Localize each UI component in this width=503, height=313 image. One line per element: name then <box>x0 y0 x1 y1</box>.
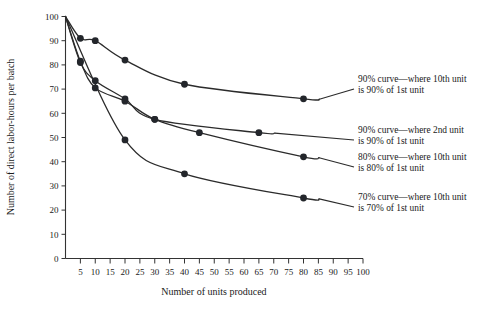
x-tick-label: 15 <box>106 267 116 277</box>
x-axis-title: Number of units produced <box>161 286 266 297</box>
learning-curve-figure: 0102030405060708090100 51015202530354045… <box>0 0 503 313</box>
x-tick-label: 5 <box>78 267 83 277</box>
x-tick-label: 65 <box>254 267 264 277</box>
data-point-marker <box>181 81 188 88</box>
curve-annotation-line2: is 70% of 1st unit <box>358 203 425 213</box>
curve-annotation-line2: is 90% of 1st unit <box>358 136 425 146</box>
y-axis-title: Number of direct labor-hours per batch <box>5 59 16 216</box>
y-tick-label: 80 <box>50 60 60 70</box>
data-point-marker <box>300 195 307 202</box>
y-tick-label: 0 <box>54 254 59 264</box>
x-axis-ticks: 5101520253035404550556065707580859095100 <box>78 259 370 277</box>
data-point-marker <box>151 116 158 123</box>
x-tick-label: 40 <box>180 267 190 277</box>
curve-line <box>66 17 320 201</box>
curve-annotations-group: 90% curve—where 10th unitis 90% of 1st u… <box>275 74 467 213</box>
data-point-marker <box>255 129 262 136</box>
data-point-marker <box>122 98 129 105</box>
data-point-marker <box>196 129 203 136</box>
y-tick-label: 90 <box>50 36 60 46</box>
y-tick-label: 40 <box>50 157 60 167</box>
data-point-marker <box>122 57 129 64</box>
y-tick-label: 70 <box>50 84 60 94</box>
data-point-marker <box>77 35 84 42</box>
x-tick-label: 55 <box>225 267 235 277</box>
x-tick-label: 50 <box>210 267 220 277</box>
x-tick-label: 30 <box>150 267 160 277</box>
y-tick-label: 10 <box>50 230 60 240</box>
y-tick-label: 20 <box>50 205 60 215</box>
x-tick-label: 85 <box>314 267 324 277</box>
data-point-marker <box>92 37 99 44</box>
curves-group <box>66 17 320 201</box>
y-tick-label: 50 <box>50 133 60 143</box>
curve-annotation-line1: 90% curve—where 2nd unit <box>358 125 464 135</box>
annotation-leader-line <box>319 158 354 167</box>
data-point-marker <box>77 58 84 65</box>
x-tick-label: 75 <box>284 267 294 277</box>
x-tick-label: 25 <box>135 267 145 277</box>
curve-line <box>66 17 320 101</box>
x-tick-label: 90 <box>329 267 339 277</box>
data-point-marker <box>300 153 307 160</box>
x-tick-label: 95 <box>344 267 354 277</box>
curve-annotation-line2: is 80% of 1st unit <box>358 163 425 173</box>
x-tick-label: 45 <box>195 267 205 277</box>
chart-canvas: 0102030405060708090100 51015202530354045… <box>0 0 503 313</box>
curve-annotation-line2: is 90% of 1st unit <box>358 85 425 95</box>
annotation-leader-line <box>275 133 354 140</box>
data-point-marker <box>92 84 99 91</box>
curve-line <box>66 17 320 159</box>
annotation-leader-line <box>319 199 354 207</box>
x-tick-label: 100 <box>356 267 370 277</box>
y-tick-label: 60 <box>50 109 60 119</box>
x-tick-label: 35 <box>165 267 175 277</box>
data-point-marker <box>300 95 307 102</box>
curve-annotation-line1: 80% curve—where 10th unit <box>358 152 467 162</box>
annotation-leader-line <box>319 89 354 99</box>
curve-annotation-line1: 90% curve—where 10th unit <box>358 74 467 84</box>
x-tick-label: 70 <box>269 267 279 277</box>
curve-annotation-line1: 70% curve—where 10th unit <box>358 192 467 202</box>
x-tick-label: 20 <box>121 267 131 277</box>
x-tick-label: 60 <box>240 267 250 277</box>
data-point-marker <box>122 137 129 144</box>
data-point-marker <box>181 170 188 177</box>
x-tick-label: 80 <box>299 267 309 277</box>
data-point-marker <box>92 77 99 84</box>
y-tick-label: 30 <box>50 181 60 191</box>
y-axis-ticks: 0102030405060708090100 <box>45 12 66 264</box>
x-tick-label: 10 <box>91 267 101 277</box>
y-tick-label: 100 <box>45 12 59 22</box>
curve-line <box>66 17 275 134</box>
